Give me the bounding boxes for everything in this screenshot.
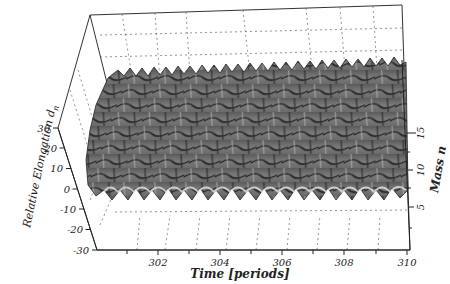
x-tick-308: 308 [334, 257, 353, 268]
y-tick-labels: 5 10 15 [415, 127, 426, 211]
x-tick-310: 310 [397, 257, 417, 268]
surface [86, 57, 408, 200]
z-tick-neg20: -20 [67, 224, 84, 235]
y-tick-10: 10 [415, 163, 426, 176]
x-tick-302: 302 [148, 257, 167, 268]
z-tick-neg30: -30 [73, 245, 90, 256]
x-axis [97, 250, 410, 255]
y-tick-15: 15 [415, 127, 426, 140]
y-tick-5: 5 [415, 204, 426, 210]
z-tick-0: 0 [64, 184, 71, 195]
surface-plot: 30 20 10 0 -10 -20 -30 Relative Elongati… [0, 0, 450, 284]
z-tick-neg10: -10 [60, 204, 77, 215]
z-tick-10: 10 [50, 163, 63, 174]
x-axis-label: Time [periods] [190, 267, 290, 281]
y-axis-label: Mass n [427, 145, 449, 195]
